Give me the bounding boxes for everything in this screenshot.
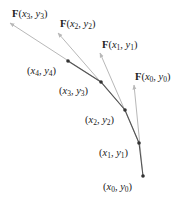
vector-label-f0: F(x0, y0) <box>135 71 171 84</box>
point-p3 <box>99 80 103 84</box>
point-p0 <box>141 174 145 178</box>
vector-label-f2: F(x2, y2) <box>60 18 96 31</box>
vector-label-f3: F(x3, y3) <box>12 8 48 21</box>
point-label-p1: (x1, y1) <box>99 147 129 160</box>
point-label-p3: (x3, y3) <box>59 85 89 98</box>
point-p1 <box>137 141 141 145</box>
vector-label-f1: F(x1, y1) <box>102 39 138 52</box>
euler-diagram: (x0, y0) (x1, y1) (x2, y2) (x3, y3) (x4,… <box>0 0 190 200</box>
point-label-p4: (x4, y4) <box>27 65 57 78</box>
point-label-p0: (x0, y0) <box>103 181 133 194</box>
point-p2 <box>123 108 127 112</box>
point-p4 <box>66 59 70 63</box>
point-label-p2: (x2, y2) <box>85 114 115 127</box>
